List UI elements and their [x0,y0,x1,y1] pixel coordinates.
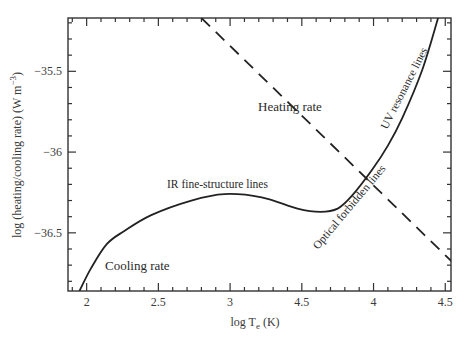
y-tick-label: −35.5 [34,64,62,78]
annotation-heating-rate: Heating rate [258,99,322,114]
annotation-ir-fine-structure: IR fine-structure lines [167,178,268,190]
x-tick-label: 3 [227,295,233,309]
annotation-cooling-rate: Cooling rate [105,258,170,273]
annotation-optical-forbidden: Optical forbidden lines [310,162,388,252]
x-tick-label: 2.5 [151,295,166,309]
y-tick-label: −36.5 [34,226,62,240]
y-axis-label: log (heating/cooling rate) (W m−3) [8,72,24,238]
x-tick-label: 4.5 [294,295,309,309]
x-tick-label: 4.5 [438,295,453,309]
x-tick-label: 4 [371,295,377,309]
y-tick-labels: −35.5−36−36.5 [34,64,62,240]
y-tick-label: −36 [43,145,62,159]
x-tick-label: 2 [84,295,90,309]
x-axis-label: log Te (K) [230,315,279,331]
cooling-rate-curve [79,18,438,291]
cooling-heating-chart: 22.534.544.5 −35.5−36−36.5 Heating rate … [0,0,471,345]
x-tick-labels: 22.534.544.5 [84,295,453,309]
plot-frame [68,18,451,291]
annotation-uv-resonance: UV resonance lines [378,45,430,131]
axis-ticks [68,18,451,291]
